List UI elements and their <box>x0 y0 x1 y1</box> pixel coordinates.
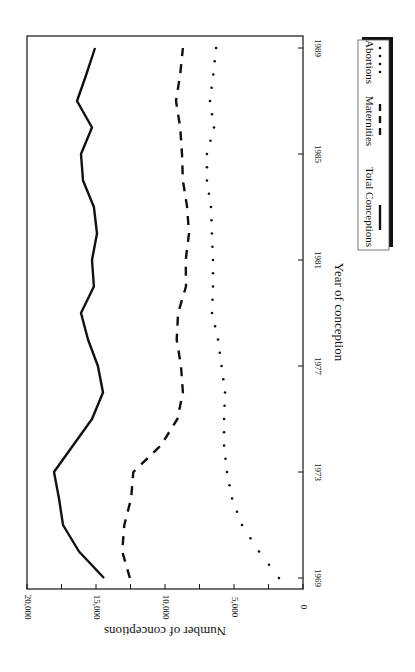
abortions-dot <box>213 60 216 63</box>
plot-frame <box>27 36 303 589</box>
abortions-dot <box>220 365 223 368</box>
abortions-dot <box>224 457 227 460</box>
legend-swatch-dot <box>379 71 382 74</box>
abortions-dot <box>268 563 271 566</box>
plot-group: 05,00010,00015,00020,0001969197319771981… <box>23 36 393 639</box>
abortions-dot <box>215 47 218 50</box>
abortions-dot <box>224 391 227 394</box>
value-axis-tick-label: 15,000 <box>92 595 102 620</box>
abortions-dot <box>209 100 212 103</box>
chart: 05,00010,00015,00020,0001969197319771981… <box>0 0 415 672</box>
abortions-dot <box>228 484 231 487</box>
abortions-dot <box>231 497 234 500</box>
abortions-dot <box>208 192 211 195</box>
abortions-dot <box>223 418 226 421</box>
year-axis-tick-label: 1985 <box>313 145 323 164</box>
legend-swatch-dot <box>379 55 382 58</box>
chart-canvas: 05,00010,00015,00020,0001969197319771981… <box>0 0 415 672</box>
value-axis-tick-label: 0 <box>299 605 309 610</box>
value-axis-tick-label: 20,000 <box>23 595 33 620</box>
abortions-dot <box>206 179 209 182</box>
year-axis-tick-label: 1973 <box>313 463 323 482</box>
abortions-dot <box>210 219 213 222</box>
abortions-dot <box>211 298 214 301</box>
abortions-dot <box>213 126 216 129</box>
abortions-dot <box>223 444 226 447</box>
abortions-dot <box>211 312 214 315</box>
abortions-dot <box>214 325 217 328</box>
abortions-dot <box>241 524 244 527</box>
abortions-dot <box>222 378 225 381</box>
abortions-dot <box>236 510 239 513</box>
year-axis-tick-label: 1989 <box>313 39 323 58</box>
abortions-dot <box>218 351 221 354</box>
abortions-dot <box>210 206 213 209</box>
abortions-dot <box>211 113 214 116</box>
legend-swatch-dot <box>379 47 382 50</box>
abortions-dot <box>249 537 252 540</box>
abortions-dot <box>223 431 226 434</box>
abortions-dot <box>206 166 209 169</box>
legend-label-abortions: Abortions <box>364 40 376 84</box>
abortions-dot <box>211 232 214 235</box>
abortions-dot <box>212 285 215 288</box>
abortions-dot <box>210 86 213 89</box>
abortions-dot <box>212 272 215 275</box>
abortions-dot <box>211 245 214 248</box>
abortions-dot <box>223 404 226 407</box>
maternities-line <box>122 48 189 578</box>
abortions-dot <box>212 259 215 262</box>
value-axis-title: Number of conceptions <box>104 624 226 639</box>
legend-label-maternities: Maternities <box>364 96 376 146</box>
year-axis-tick-label: 1977 <box>313 357 323 376</box>
abortions-dot <box>206 153 209 156</box>
total-conceptions-line <box>54 48 104 578</box>
abortions-dot <box>226 471 229 474</box>
abortions-dot <box>258 550 261 553</box>
year-axis-tick-label: 1981 <box>313 251 323 269</box>
value-axis-tick-label: 5,000 <box>230 597 240 618</box>
year-axis-title: Year of conception <box>332 263 347 362</box>
abortions-dot <box>217 338 220 341</box>
legend-swatch-dot <box>379 63 382 66</box>
value-axis-tick-label: 10,000 <box>161 595 171 620</box>
abortions-dot <box>212 73 215 76</box>
legend-label-total: Total Conceptions <box>364 167 376 247</box>
abortions-dot <box>278 577 281 580</box>
year-axis-tick-label: 1969 <box>313 569 323 588</box>
abortions-dot <box>209 139 212 142</box>
